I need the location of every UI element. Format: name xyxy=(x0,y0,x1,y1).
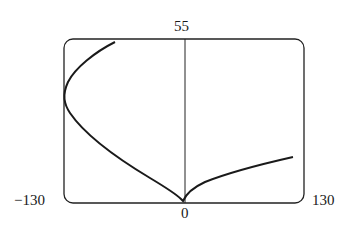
x-min-label: −130 xyxy=(14,192,45,209)
viewing-window-frame xyxy=(64,39,304,203)
y-min-label: 0 xyxy=(181,205,189,222)
x-max-label: 130 xyxy=(312,192,335,209)
y-max-label: 55 xyxy=(174,18,189,35)
curve xyxy=(64,42,293,201)
